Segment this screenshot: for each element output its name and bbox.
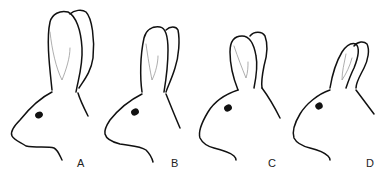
rabbit-d-neck [356,90,374,114]
rabbit-b-inner-ear [146,44,158,80]
rabbit-c-inner-ear [234,46,248,78]
rabbit-c [199,32,280,160]
rabbit-b-neck [166,94,180,128]
rabbit-d [293,42,374,160]
rabbit-a [11,10,93,160]
rabbit-a-head [11,92,62,160]
rabbit-c-head [199,90,238,160]
rabbit-c-eye [223,103,233,113]
rabbit-c-back-ear [250,32,267,88]
rabbit-a-neck [78,93,88,116]
rabbit-a-inner-ear [50,32,70,80]
rabbit-b [105,27,180,162]
label-c: C [268,157,276,169]
rabbit-b-head [105,94,153,162]
rabbit-c-front-ear [230,36,257,90]
rabbit-d-head [293,90,330,160]
rabbit-b-front-ear [141,27,168,92]
label-d: D [366,157,374,169]
label-a: A [77,157,84,169]
rabbit-d-front-ear [330,43,358,88]
label-b: B [171,157,178,169]
rabbit-a-eye [34,110,44,119]
rabbit-d-back-ear [354,42,368,88]
rabbit-d-eye [314,101,324,110]
rabbit-c-neck [262,88,280,118]
rabbit-figure [0,0,384,175]
rabbit-b-eye [130,107,140,117]
